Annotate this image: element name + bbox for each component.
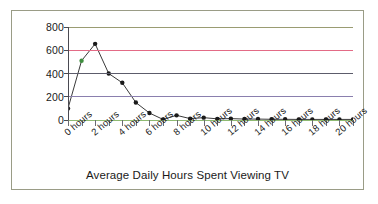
gridline-800 xyxy=(68,27,353,28)
chart-plot-region: 8006004002000 0 hours2 hours4 hours6 hou… xyxy=(12,11,363,189)
data-point xyxy=(93,42,97,46)
y-tick-label: 600 xyxy=(46,45,64,56)
data-point xyxy=(120,81,124,85)
gridline-200 xyxy=(68,96,353,97)
y-tick-mark xyxy=(64,27,69,28)
gridline-600 xyxy=(68,50,353,51)
gridline-400 xyxy=(68,73,353,74)
data-point xyxy=(147,111,151,115)
y-tick-mark xyxy=(64,96,69,97)
x-axis-tick-labels: 0 hours2 hours4 hours6 hours8 hours10 ho… xyxy=(68,127,368,173)
y-axis-labels: 8006004002000 xyxy=(20,11,64,189)
data-point xyxy=(79,59,83,63)
y-tick-mark xyxy=(64,50,69,51)
y-tick-label: 400 xyxy=(46,69,64,80)
y-tick-label: 800 xyxy=(46,22,64,33)
data-point xyxy=(174,113,178,117)
data-point xyxy=(134,100,138,104)
y-tick-label: 200 xyxy=(46,92,64,103)
chart-frame: 8006004002000 0 hours2 hours4 hours6 hou… xyxy=(11,10,364,190)
y-tick-mark xyxy=(64,73,69,74)
x-axis-title: Average Daily Hours Spent Viewing TV xyxy=(12,169,363,181)
plot-box xyxy=(68,27,353,120)
